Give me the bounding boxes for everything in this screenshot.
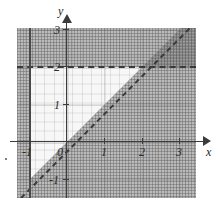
x-tick-3 [179,138,180,144]
x-tick-label-1: 1 [101,146,107,158]
coordinate-graph-figure: -1 1 2 3 3 2 1 -1 0 x y [0,0,220,206]
margin-dot [5,158,7,160]
x-tick-neg1 [29,138,30,144]
x-tick-label-3: 3 [176,146,182,158]
x-tick-2 [142,138,143,144]
x-tick-1 [104,138,105,144]
y-tick-3 [63,29,69,30]
origin-label: 0 [57,146,63,158]
y-axis-arrow-icon [62,14,72,23]
y-tick-label-2: 2 [54,61,60,73]
y-tick-label-3: 3 [54,24,60,36]
plot-area [17,28,196,198]
line-x-equals-neg1 [29,28,31,198]
y-axis-label: y [58,5,63,17]
line-y-equals-2 [17,66,196,68]
y-tick-label-1: 1 [54,99,60,111]
y-tick-label-neg1: -1 [49,174,59,186]
x-tick-label-neg1: -1 [22,146,32,158]
y-tick-2 [63,66,69,67]
y-axis [66,22,67,198]
x-axis-label: x [206,146,211,158]
x-tick-label-2: 2 [139,146,145,158]
shaded-region-above-y2 [17,28,196,67]
x-axis [10,141,206,142]
y-tick-1 [63,104,69,105]
y-tick-neg1 [63,179,69,180]
